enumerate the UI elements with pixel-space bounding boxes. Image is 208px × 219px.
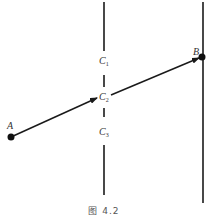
figure-caption: 图 4.2 <box>0 204 208 217</box>
path-a-to-c2-arrow <box>11 98 97 137</box>
point-b-dot <box>199 54 206 61</box>
point-b-label: B <box>193 47 199 57</box>
path-c2-to-b-arrow <box>111 58 199 95</box>
slit-c3-label: C3 <box>99 127 109 138</box>
slit-c1-label: C1 <box>99 56 109 67</box>
point-a-label: A <box>7 121 13 131</box>
slit-c2-label: C2 <box>99 92 109 103</box>
point-a-dot <box>8 134 15 141</box>
diagram-canvas <box>0 0 208 219</box>
